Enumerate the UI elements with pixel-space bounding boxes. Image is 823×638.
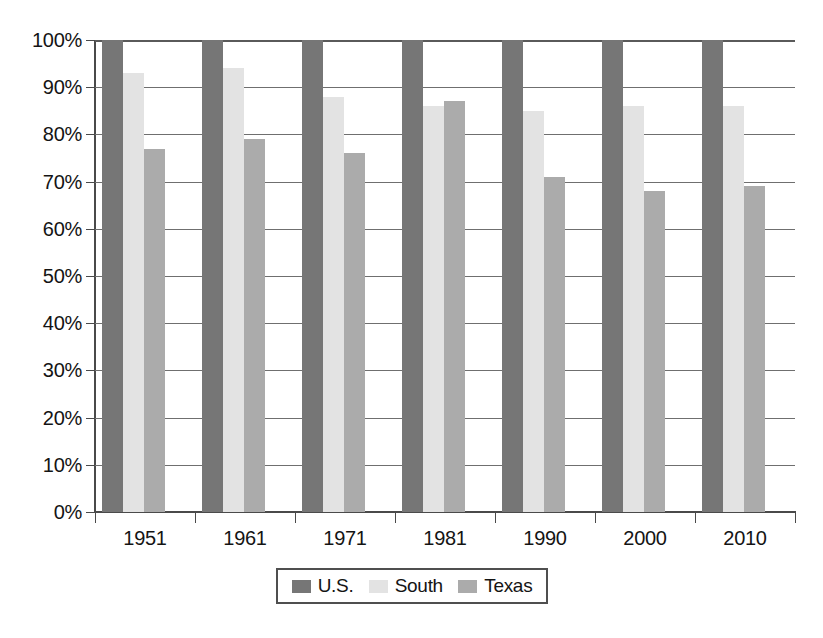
legend-item-south: South: [369, 575, 443, 597]
y-axis-tick: [86, 229, 95, 230]
y-axis-tick: [86, 323, 95, 324]
bar-texas-2010: [744, 186, 765, 512]
y-axis-tick-label: 100%: [32, 29, 82, 52]
x-axis-label-1961: 1961: [223, 527, 266, 550]
y-axis-tick-label: 10%: [43, 453, 82, 476]
legend-swatch-icon: [458, 580, 477, 593]
bar-texas-2000: [644, 191, 665, 512]
x-axis-tick: [195, 512, 196, 523]
y-axis-tick-label: 50%: [43, 265, 82, 288]
y-axis-tick: [86, 465, 95, 466]
plot-area: 0%10%20%30%40%50%60%70%80%90%100%1951196…: [95, 40, 795, 512]
bar-texas-1990: [544, 177, 565, 512]
bar-us-1990: [502, 40, 523, 512]
x-axis-label-1951: 1951: [123, 527, 166, 550]
bar-south-1951: [123, 73, 144, 512]
bar-south-1990: [523, 111, 544, 512]
legend-swatch-icon: [369, 580, 388, 593]
y-axis-tick-label: 80%: [43, 123, 82, 146]
x-axis-tick: [495, 512, 496, 523]
x-axis-label-1981: 1981: [423, 527, 466, 550]
legend-label: South: [395, 575, 443, 597]
y-axis-tick-label: 40%: [43, 312, 82, 335]
bar-texas-1971: [344, 153, 365, 512]
bar-us-1951: [102, 40, 123, 512]
y-axis-tick-label: 30%: [43, 359, 82, 382]
legend-item-texas: Texas: [458, 575, 532, 597]
bar-south-1971: [323, 97, 344, 512]
bar-texas-1961: [244, 139, 265, 512]
x-axis-tick: [395, 512, 396, 523]
bar-us-2000: [602, 40, 623, 512]
bar-south-1961: [223, 68, 244, 512]
y-axis-tick-label: 60%: [43, 217, 82, 240]
chart-legend: U.S.SouthTexas: [276, 568, 548, 604]
y-axis-tick: [86, 370, 95, 371]
bar-texas-1951: [144, 149, 165, 512]
y-axis-tick-label: 0%: [54, 501, 82, 524]
y-axis-tick: [86, 418, 95, 419]
x-axis-tick: [595, 512, 596, 523]
y-axis-tick-label: 20%: [43, 406, 82, 429]
legend-label: U.S.: [318, 575, 354, 597]
bar-us-1971: [302, 40, 323, 512]
x-axis-tick: [95, 512, 96, 523]
gridline: [95, 40, 795, 42]
x-axis-label-1971: 1971: [323, 527, 366, 550]
legend-item-us: U.S.: [292, 575, 354, 597]
y-axis-tick: [86, 40, 95, 41]
x-axis-label-2010: 2010: [723, 527, 766, 550]
bar-us-1981: [402, 40, 423, 512]
y-axis-tick: [86, 134, 95, 135]
bar-south-2000: [623, 106, 644, 512]
bar-south-2010: [723, 106, 744, 512]
bar-chart: 0%10%20%30%40%50%60%70%80%90%100%1951196…: [0, 0, 823, 638]
bar-south-1981: [423, 106, 444, 512]
y-axis-tick: [86, 87, 95, 88]
y-axis-tick: [86, 182, 95, 183]
legend-swatch-icon: [292, 580, 311, 593]
bar-texas-1981: [444, 101, 465, 512]
x-axis-tick: [795, 512, 796, 523]
y-axis-tick-label: 70%: [43, 170, 82, 193]
gridline: [95, 87, 795, 88]
x-axis-label-2000: 2000: [623, 527, 666, 550]
y-axis-tick: [86, 512, 95, 513]
legend-label: Texas: [484, 575, 532, 597]
x-axis-tick: [695, 512, 696, 523]
x-axis-tick: [295, 512, 296, 523]
x-axis-label-1990: 1990: [523, 527, 566, 550]
bar-us-1961: [202, 40, 223, 512]
y-axis-tick: [86, 276, 95, 277]
y-axis-tick-label: 90%: [43, 76, 82, 99]
bar-us-2010: [702, 40, 723, 512]
